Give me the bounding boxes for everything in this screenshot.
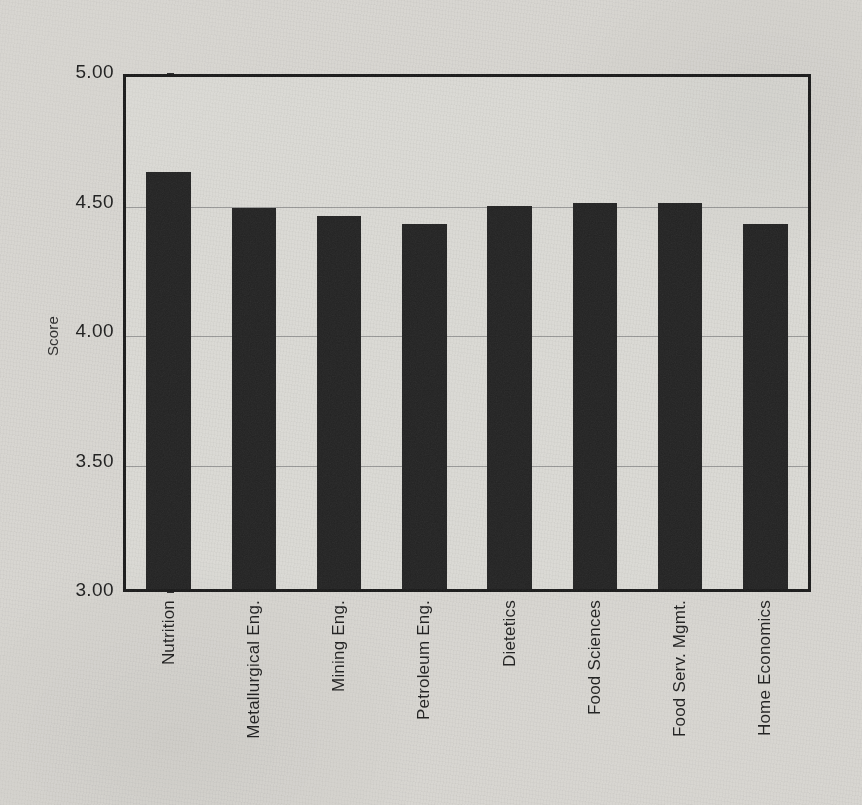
x-axis-label-slot: Food Serv. Mgmt. (638, 596, 723, 805)
x-axis-label-slot: Metallurgical Eng. (211, 596, 296, 805)
x-axis-label-slot: Food Sciences (552, 596, 637, 805)
y-axis-tick-label: 3.50 (50, 450, 114, 472)
x-axis-category-label: Food Sciences (585, 600, 605, 715)
bar (658, 203, 702, 589)
bars-group (126, 77, 808, 589)
x-axis-label-slot: Home Economics (723, 596, 808, 805)
y-axis-tick-label: 5.00 (50, 61, 114, 83)
x-axis-label-slot: Dietetics (467, 596, 552, 805)
x-axis-category-label: Mining Eng. (329, 600, 349, 692)
x-axis-category-label: Dietetics (500, 600, 520, 667)
bar (317, 216, 361, 589)
y-axis-tick-label: 4.00 (50, 320, 114, 342)
x-axis-category-label: Home Economics (755, 600, 775, 736)
x-axis-label-slot: Mining Eng. (297, 596, 382, 805)
x-axis-category-label: Food Serv. Mgmt. (670, 600, 690, 737)
x-axis-category-label: Metallurgical Eng. (244, 600, 264, 739)
bar (402, 224, 446, 589)
x-axis-label-slot: Nutrition (126, 596, 211, 805)
bar (573, 203, 617, 589)
bar-chart: Score 5.004.504.003.503.00 NutritionMeta… (0, 0, 862, 805)
bar (146, 172, 190, 589)
plot-area (123, 74, 811, 592)
y-axis-tick-label: 3.00 (50, 579, 114, 601)
bar (743, 224, 787, 589)
bar (487, 206, 531, 589)
x-axis-category-labels: NutritionMetallurgical Eng.Mining Eng.Pe… (123, 596, 811, 805)
bar (232, 208, 276, 589)
x-axis-category-label: Petroleum Eng. (414, 600, 434, 720)
x-axis-label-slot: Petroleum Eng. (382, 596, 467, 805)
y-axis-tick-label: 4.50 (50, 191, 114, 213)
y-axis-tick-labels: 5.004.504.003.503.00 (50, 0, 114, 805)
plot-inner (126, 77, 808, 589)
x-axis-category-label: Nutrition (159, 600, 179, 665)
